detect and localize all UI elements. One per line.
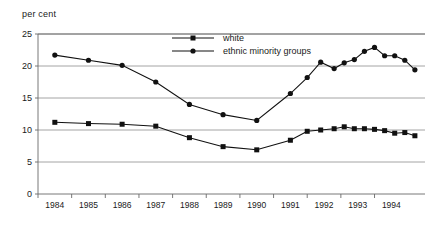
- datapoint-0-15: [382, 128, 387, 133]
- datapoint-1-15: [382, 53, 387, 58]
- datapoint-0-7: [288, 138, 293, 143]
- y-tick-label-0: 0: [27, 189, 32, 199]
- x-tick-label-1984: 1984: [45, 200, 64, 210]
- datapoint-0-17: [402, 130, 407, 135]
- datapoint-1-18: [412, 67, 417, 72]
- legend-marker-0: [191, 36, 196, 41]
- x-tick-label-1988: 1988: [180, 200, 199, 210]
- x-tick-label-1987: 1987: [146, 200, 165, 210]
- datapoint-1-14: [372, 45, 377, 50]
- x-tick-label-1990: 1990: [247, 200, 266, 210]
- datapoint-1-13: [362, 49, 367, 54]
- datapoint-0-9: [318, 128, 323, 133]
- series-line-0: [55, 122, 415, 150]
- datapoint-1-8: [305, 75, 310, 80]
- datapoint-1-17: [402, 58, 407, 63]
- y-tick-label-10: 10: [22, 125, 32, 135]
- datapoint-0-16: [392, 131, 397, 136]
- plot-area: 0510152025198419851986198719881989199019…: [0, 0, 434, 225]
- x-tick-label-1992: 1992: [315, 200, 334, 210]
- datapoint-0-10: [332, 126, 337, 131]
- datapoint-1-11: [342, 60, 347, 65]
- datapoint-0-12: [352, 126, 357, 131]
- datapoint-1-5: [220, 112, 225, 117]
- datapoint-1-7: [288, 91, 293, 96]
- datapoint-0-8: [305, 129, 310, 134]
- series-line-1: [55, 47, 415, 120]
- datapoint-0-4: [187, 135, 192, 140]
- y-tick-label-5: 5: [27, 157, 32, 167]
- datapoint-0-11: [342, 124, 347, 129]
- datapoint-1-4: [187, 102, 192, 107]
- datapoint-1-1: [86, 58, 91, 63]
- datapoint-1-12: [352, 57, 357, 62]
- x-tick-label-1986: 1986: [113, 200, 132, 210]
- datapoint-1-6: [254, 118, 259, 123]
- datapoint-0-14: [372, 127, 377, 132]
- datapoint-1-9: [318, 60, 323, 65]
- x-tick-label-1993: 1993: [348, 200, 367, 210]
- x-tick-label-1989: 1989: [214, 200, 233, 210]
- datapoint-0-13: [362, 126, 367, 131]
- y-tick-label-25: 25: [22, 29, 32, 39]
- datapoint-0-0: [52, 120, 57, 125]
- legend-label-1: ethnic minority groups: [223, 46, 312, 56]
- datapoint-1-10: [332, 66, 337, 71]
- datapoint-1-0: [52, 53, 57, 58]
- legend-marker-1: [190, 48, 195, 53]
- x-tick-label-1991: 1991: [281, 200, 300, 210]
- datapoint-0-2: [120, 122, 125, 127]
- y-tick-label-15: 15: [22, 93, 32, 103]
- datapoint-1-2: [120, 63, 125, 68]
- datapoint-1-16: [392, 53, 397, 58]
- y-tick-label-20: 20: [22, 61, 32, 71]
- x-tick-label-1994: 1994: [382, 200, 401, 210]
- datapoint-0-5: [221, 144, 226, 149]
- x-tick-label-1985: 1985: [79, 200, 98, 210]
- datapoint-0-18: [412, 133, 417, 138]
- legend-label-0: white: [222, 33, 244, 43]
- datapoint-0-1: [86, 121, 91, 126]
- datapoint-0-6: [254, 147, 259, 152]
- datapoint-0-3: [153, 124, 158, 129]
- datapoint-1-3: [153, 79, 158, 84]
- unemployment-line-chart: per cent 0510152025198419851986198719881…: [0, 0, 434, 225]
